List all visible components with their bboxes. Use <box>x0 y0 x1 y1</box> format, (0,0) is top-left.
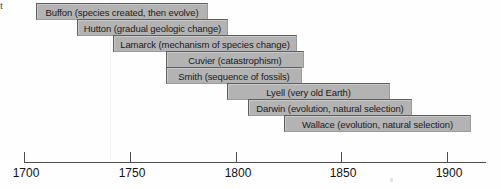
x-axis-tick-label: 1750 <box>119 166 146 180</box>
x-axis-tick-label: 1800 <box>225 166 252 180</box>
timeline-bar-label: Lyell (very old Earth) <box>228 86 389 97</box>
timeline-bar-label: Cuvier (catastrophism) <box>167 54 303 65</box>
timeline-bar-darwin[interactable]: Darwin (evolution, natural selection) <box>248 99 412 116</box>
timeline-bar-lyell[interactable]: Lyell (very old Earth) <box>227 83 390 100</box>
timeline-figure: t Buffon (species created, then evolve) … <box>0 0 501 189</box>
timeline-bar-lamarck[interactable]: Lamarck (mechanism of species change) <box>113 35 297 52</box>
timeline-bar-label: Buffon (species created, then evolve) <box>37 6 207 17</box>
timeline-bar-label: Darwin (evolution, natural selection) <box>249 102 411 113</box>
x-axis-line <box>24 162 486 163</box>
timeline-bar-label: Wallace (evolution, natural selection) <box>285 118 470 129</box>
x-axis-tick <box>24 152 25 163</box>
scan-artifact-speck <box>390 178 393 182</box>
timeline-bar-label: Hutton (gradual geologic change) <box>78 22 227 33</box>
x-axis-tick <box>447 152 448 163</box>
cropped-edge-glyph: t <box>0 0 4 10</box>
x-axis-tick-label: 1900 <box>436 166 463 180</box>
x-axis-tick-label: 1700 <box>13 166 40 180</box>
x-axis-tick <box>236 152 237 163</box>
x-axis-tick <box>341 152 342 163</box>
timeline-bar-buffon[interactable]: Buffon (species created, then evolve) <box>36 3 208 20</box>
timeline-bar-smith[interactable]: Smith (sequence of fossils) <box>166 67 302 84</box>
timeline-bar-cuvier[interactable]: Cuvier (catastrophism) <box>166 51 304 68</box>
x-axis-tick <box>130 152 131 163</box>
timeline-bar-wallace[interactable]: Wallace (evolution, natural selection) <box>284 115 471 132</box>
timeline-bar-hutton[interactable]: Hutton (gradual geologic change) <box>77 19 228 36</box>
timeline-bar-label: Smith (sequence of fossils) <box>167 70 301 81</box>
x-axis-tick-label: 1850 <box>330 166 357 180</box>
timeline-bar-label: Lamarck (mechanism of species change) <box>114 38 296 49</box>
